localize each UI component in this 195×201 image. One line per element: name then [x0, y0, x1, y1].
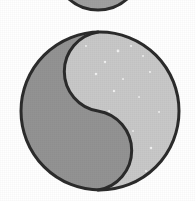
image-canvas: Two-tone S-divided circle — [0, 0, 195, 201]
main-circle — [19, 32, 179, 190]
figure-illustration — [0, 0, 195, 201]
top-partial-circle — [54, 0, 142, 10]
top-partial-circle-body — [54, 0, 142, 10]
